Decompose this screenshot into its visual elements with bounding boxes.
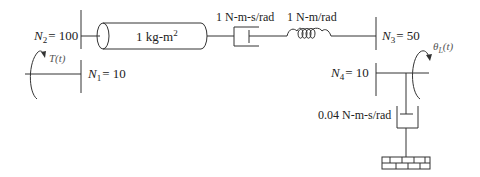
gear-n2-label: N2= 100 xyxy=(33,28,78,45)
gear-n4-value: = 10 xyxy=(345,65,369,80)
gear-n1-sub: 1 xyxy=(97,73,102,83)
torque-arrow-icon xyxy=(30,51,46,99)
gear-n1 xyxy=(25,60,81,93)
inertia-text: 1 kg-m xyxy=(136,29,173,44)
gear-n3-value: = 50 xyxy=(396,28,420,43)
spring xyxy=(287,28,376,38)
damper-top-label: 1 N-m-s/rad xyxy=(216,10,274,24)
gear-n1-value: = 10 xyxy=(102,66,126,81)
inertia-sup: 2 xyxy=(173,28,178,38)
ground-icon xyxy=(382,157,430,169)
output-angle-arrow-icon xyxy=(413,51,433,99)
output-angle-label: θL(t) xyxy=(433,40,454,55)
gear-n2 xyxy=(81,10,100,49)
gear-n3-label: N3= 50 xyxy=(381,28,420,45)
inertia-label: 1 kg-m2 xyxy=(136,28,178,44)
damper-top xyxy=(234,27,287,46)
gear-n2-value: = 100 xyxy=(48,28,78,43)
diagram-canvas: N2= 100 1 kg-m2 1 N-m-s/rad 1 N-m/rad N3… xyxy=(0,0,480,177)
gear-n2-sub: 2 xyxy=(43,35,48,45)
gear-n4-sub: 4 xyxy=(340,72,345,82)
gear-n4-label: N4= 10 xyxy=(330,65,369,82)
damper-bottom xyxy=(397,106,418,157)
damper-bottom-label: 0.04 N-m-s/rad xyxy=(318,108,391,122)
output-angle-arg: (t) xyxy=(443,40,454,53)
gear-n3-sub: 3 xyxy=(391,35,396,45)
spring-label: 1 N-m/rad xyxy=(287,10,337,24)
gear-n1-label: N1= 10 xyxy=(87,66,126,83)
torque-label: T(t) xyxy=(49,52,66,65)
gear-n4 xyxy=(376,63,429,96)
